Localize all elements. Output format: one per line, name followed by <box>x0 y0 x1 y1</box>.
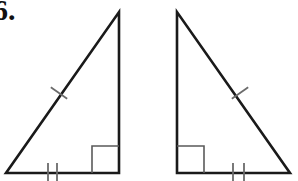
left-triangle-group <box>6 12 119 181</box>
geometry-diagram <box>0 0 298 181</box>
right-triangle-outline <box>177 12 290 173</box>
right-triangle-right-angle-icon <box>177 146 204 173</box>
geometry-figure-canvas: 6. <box>0 0 298 181</box>
left-triangle-outline <box>6 12 119 173</box>
right-triangle-group <box>177 12 290 181</box>
left-triangle-right-angle-icon <box>92 146 119 173</box>
